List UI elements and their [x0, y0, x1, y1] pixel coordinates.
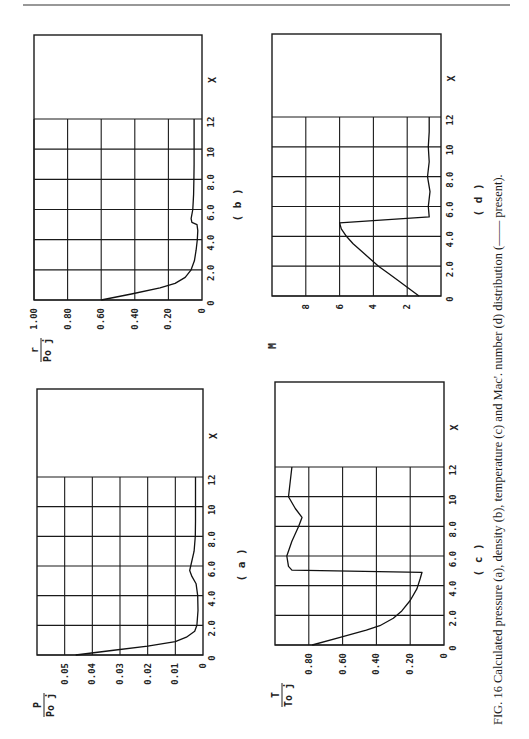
x-axis-label: X	[207, 77, 218, 83]
panel-d: 02.04.06.08.010128642XM( d )	[267, 34, 485, 349]
plot-frame	[272, 34, 441, 296]
y-tick-label: 4	[368, 303, 378, 309]
y-axis-label: PPo j	[32, 693, 56, 717]
plot-frame	[34, 35, 202, 300]
panel-label: ( b )	[231, 188, 244, 221]
y-tick-label: 0.20	[163, 308, 173, 330]
x-tick-label: 6.0	[206, 204, 216, 220]
x-tick-label: 2.0	[206, 265, 216, 281]
y-tick-label: 0.80	[63, 308, 73, 330]
y-tick-label: 0	[439, 653, 449, 658]
x-tick-label: 6.0	[445, 201, 455, 217]
y-tick-label: 0	[198, 663, 208, 668]
x-tick-label: 10	[445, 144, 455, 155]
y-tick-label: 0.02	[143, 663, 153, 685]
y-tick-label: 0.01	[170, 663, 180, 685]
y-tick-label: 0.03	[115, 663, 125, 685]
figure-caption: FIG. 16 Calculated pressure (a), density…	[491, 174, 505, 725]
plots-group: 02.04.06.08.010120.050.040.030.020.010XP…	[29, 34, 485, 717]
y-tick-label: 0.80	[304, 653, 314, 675]
y-axis-label: TTo j	[270, 683, 294, 707]
y-tick-label: 0.60	[96, 308, 106, 330]
figure-16: 02.04.06.08.010120.050.040.030.020.010XP…	[0, 0, 529, 739]
panel-label: ( c )	[472, 543, 485, 576]
y-tick-label: 0.40	[130, 308, 140, 330]
x-axis-label: X	[446, 75, 457, 81]
x-tick-label: 8.0	[206, 174, 216, 190]
panel-label: ( d )	[472, 183, 485, 216]
x-tick-label: 2.0	[448, 610, 458, 626]
x-tick-label: 0	[207, 655, 217, 660]
panel-b: 02.04.06.08.010121.000.800.600.400.200Xr…	[29, 35, 244, 362]
y-label-numerator: M	[267, 343, 278, 349]
y-tick-label: 1.00	[29, 308, 39, 330]
y-axis-label: rPo j	[29, 338, 53, 362]
y-tick-label: 0.40	[371, 653, 381, 675]
x-tick-label: 8.0	[445, 172, 455, 188]
y-tick-label: 8	[301, 304, 311, 309]
y-tick-label: 2	[402, 304, 412, 309]
x-tick-label: 0	[206, 300, 216, 305]
panel-c: 02.04.06.08.010120.800.600.400.200XTTo j…	[270, 382, 485, 707]
y-label-numerator: T	[270, 692, 281, 698]
x-axis-label: X	[449, 424, 460, 430]
x-tick-label: 2.0	[445, 261, 455, 277]
x-tick-label: 4.0	[448, 581, 458, 597]
y-label-numerator: r	[29, 347, 40, 353]
x-tick-label: 4.0	[206, 235, 216, 251]
x-tick-label: 4.0	[445, 231, 455, 247]
y-tick-label: 0.60	[338, 653, 348, 675]
x-tick-label: 10	[207, 504, 217, 515]
y-label-denominator: To j	[283, 683, 294, 707]
x-tick-label: 10	[206, 147, 216, 158]
x-tick-label: 12	[207, 475, 217, 486]
y-tick-label: 0.05	[60, 663, 70, 685]
x-tick-label: 12	[448, 465, 458, 476]
y-label-denominator: Po j	[45, 693, 56, 717]
x-tick-label: 6.0	[207, 561, 217, 577]
x-axis-label: X	[208, 433, 219, 439]
y-tick-label: 0.20	[405, 653, 415, 675]
x-tick-label: 0	[448, 645, 458, 650]
y-tick-label: 0	[197, 308, 207, 313]
x-tick-label: 2.0	[207, 620, 217, 636]
x-tick-label: 12	[445, 115, 455, 126]
y-tick-label: 6	[335, 304, 345, 309]
x-tick-label: 0	[445, 296, 455, 301]
x-tick-label: 6.0	[448, 551, 458, 567]
y-label-numerator: P	[32, 702, 43, 708]
y-tick-label: 0.04	[87, 662, 97, 684]
x-tick-label: 10	[448, 494, 458, 505]
x-tick-label: 12	[206, 117, 216, 128]
panel-label: ( a )	[235, 548, 248, 581]
y-label-denominator: Po j	[42, 338, 53, 362]
x-tick-label: 8.0	[448, 521, 458, 537]
x-tick-label: 4.0	[207, 591, 217, 607]
plot-frame	[275, 382, 444, 645]
panel-a: 02.04.06.08.010120.050.040.030.020.010XP…	[32, 389, 248, 717]
y-axis-label: M	[267, 343, 278, 349]
x-tick-label: 8.0	[207, 531, 217, 547]
